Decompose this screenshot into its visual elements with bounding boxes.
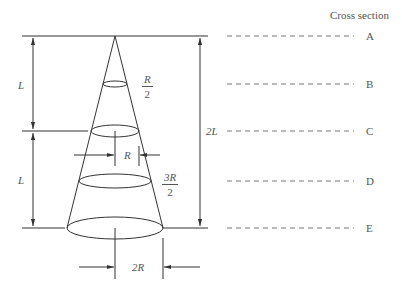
- section-label-a: A: [366, 31, 374, 42]
- radius-b-denominator: 2: [142, 87, 153, 100]
- cross-section-title: Cross section: [330, 10, 389, 21]
- upper-length-label: L: [18, 80, 24, 91]
- cross-section-d-ellipse: [79, 174, 151, 188]
- cone-diagram: [0, 0, 402, 290]
- cross-section-dashed-lines: [227, 36, 354, 228]
- radius-d-denominator: 2: [162, 185, 178, 198]
- lower-length-label: L: [18, 175, 24, 186]
- radius-c-label: R: [124, 150, 131, 161]
- section-label-d: D: [366, 176, 374, 187]
- base-diameter-label: 2R: [132, 262, 144, 273]
- cross-section-b-ellipse: [103, 81, 127, 87]
- radius-d-numerator: 3R: [162, 172, 178, 185]
- radius-d-fraction: 3R 2: [162, 172, 178, 198]
- total-length-label: 2L: [206, 126, 218, 137]
- section-label-e: E: [366, 223, 373, 234]
- radius-b-fraction: R 2: [142, 74, 153, 100]
- section-label-b: B: [366, 79, 373, 90]
- section-label-c: C: [366, 126, 373, 137]
- radius-b-numerator: R: [142, 74, 153, 87]
